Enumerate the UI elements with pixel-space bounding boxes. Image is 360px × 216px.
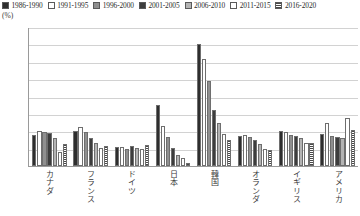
bar[interactable] <box>284 132 288 166</box>
bar[interactable] <box>73 131 77 166</box>
bar[interactable] <box>227 140 231 166</box>
y-axis-unit-label: (%) <box>2 11 13 20</box>
bar[interactable] <box>135 148 139 166</box>
legend-item-1991-1995[interactable]: 1991-1995 <box>48 1 89 10</box>
bar-group-オランダ <box>235 28 276 166</box>
bar[interactable] <box>222 134 226 166</box>
legend-item-label: 2001-2005 <box>148 1 179 10</box>
bar[interactable] <box>340 138 344 166</box>
bar[interactable] <box>248 137 252 166</box>
legend-swatch-icon <box>93 2 100 9</box>
bar[interactable] <box>186 163 190 166</box>
legend-item-2011-2015[interactable]: 2011-2015 <box>230 1 270 10</box>
bar[interactable] <box>238 136 242 166</box>
legend-swatch-icon <box>139 2 146 9</box>
bar[interactable] <box>47 133 51 166</box>
bar[interactable] <box>253 140 257 166</box>
bar[interactable] <box>330 136 334 166</box>
bar[interactable] <box>84 132 88 166</box>
bar[interactable] <box>32 135 36 166</box>
bar[interactable] <box>166 137 170 166</box>
bar[interactable] <box>181 158 185 166</box>
bar[interactable] <box>197 44 201 166</box>
bar[interactable] <box>140 149 144 166</box>
x-axis-category-label: 韓国 <box>209 170 219 216</box>
bar[interactable] <box>335 137 339 166</box>
x-axis-category-label: フランス <box>85 170 95 216</box>
bar-group-日本 <box>152 28 193 166</box>
bar[interactable] <box>309 143 313 166</box>
bar[interactable] <box>325 123 329 166</box>
bar[interactable] <box>161 126 165 166</box>
bar[interactable] <box>207 81 211 166</box>
x-axis-category-label: イギリス <box>291 170 301 216</box>
bar-group-ドイツ <box>111 28 152 166</box>
bar[interactable] <box>58 152 62 166</box>
bar[interactable] <box>130 146 134 166</box>
x-axis-category-label: カナダ <box>44 170 54 216</box>
bar[interactable] <box>94 143 98 166</box>
bar-group-韓国 <box>194 28 235 166</box>
x-axis-category-label: 日本 <box>168 170 178 216</box>
bar[interactable] <box>345 118 349 166</box>
chart-legend: 1986-19901991-19951996-20002001-20052006… <box>2 1 321 10</box>
x-axis-category-label: アメリカ <box>333 170 343 216</box>
x-axis-category-ドイツ: ドイツ <box>111 170 152 216</box>
legend-swatch-icon <box>48 2 55 9</box>
bar[interactable] <box>320 134 324 166</box>
bar[interactable] <box>63 144 67 166</box>
bar[interactable] <box>217 123 221 166</box>
legend-item-2006-2010[interactable]: 2006-2010 <box>185 1 226 10</box>
bar[interactable] <box>115 147 119 166</box>
bar[interactable] <box>212 110 216 166</box>
bar-group-アメリカ <box>317 28 358 166</box>
bar[interactable] <box>243 135 247 166</box>
bar[interactable] <box>53 138 57 166</box>
bar[interactable] <box>171 148 175 166</box>
x-axis-category-カナダ: カナダ <box>28 170 69 216</box>
bar[interactable] <box>258 144 262 166</box>
bar[interactable] <box>120 147 124 166</box>
bar[interactable] <box>351 130 355 166</box>
bar[interactable] <box>176 155 180 166</box>
legend-item-label: 1991-1995 <box>57 1 88 10</box>
x-axis-category-イギリス: イギリス <box>276 170 317 216</box>
bar[interactable] <box>156 105 160 166</box>
bar-group-イギリス <box>276 28 317 166</box>
plot-area <box>28 28 358 167</box>
bar[interactable] <box>37 131 41 166</box>
x-axis-category-labels: カナダフランスドイツ日本韓国オランダイギリスアメリカ <box>28 170 358 216</box>
legend-item-label: 2011-2015 <box>240 1 271 10</box>
bar-groups <box>29 28 358 166</box>
bar-group-カナダ <box>29 28 70 166</box>
bar[interactable] <box>89 138 93 166</box>
bar-chart: 1986-19901991-19951996-20002001-20052006… <box>0 0 360 216</box>
bar[interactable] <box>78 127 82 166</box>
bar[interactable] <box>42 132 46 166</box>
bar[interactable] <box>299 138 303 166</box>
legend-item-label: 1996-2000 <box>103 1 134 10</box>
bar-group-フランス <box>70 28 111 166</box>
legend-item-2001-2005[interactable]: 2001-2005 <box>139 1 180 10</box>
legend-swatch-icon <box>2 2 9 9</box>
bar[interactable] <box>104 146 108 166</box>
bar[interactable] <box>279 131 283 166</box>
bar[interactable] <box>145 145 149 166</box>
bar[interactable] <box>294 136 298 166</box>
legend-item-1986-1990[interactable]: 1986-1990 <box>2 1 43 10</box>
bar[interactable] <box>268 150 272 167</box>
bar[interactable] <box>289 135 293 166</box>
bar[interactable] <box>304 143 308 166</box>
legend-swatch-icon <box>275 2 282 9</box>
legend-swatch-icon <box>185 2 192 9</box>
bar[interactable] <box>263 149 267 166</box>
x-axis-category-フランス: フランス <box>69 170 110 216</box>
legend-item-1996-2000[interactable]: 1996-2000 <box>93 1 134 10</box>
legend-item-2016-2020[interactable]: 2016-2020 <box>275 1 316 10</box>
bar[interactable] <box>202 59 206 166</box>
bar[interactable] <box>99 148 103 166</box>
bar[interactable] <box>125 149 129 166</box>
x-axis-category-アメリカ: アメリカ <box>317 170 358 216</box>
legend-item-label: 1986-1990 <box>12 1 43 10</box>
x-axis-category-韓国: 韓国 <box>193 170 234 216</box>
